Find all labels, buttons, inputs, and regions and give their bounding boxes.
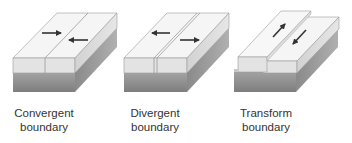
transform-label-line1: Transform bbox=[231, 106, 301, 120]
transform-label-line2: boundary bbox=[231, 120, 301, 134]
convergent-label-line2: boundary bbox=[8, 120, 80, 134]
divergent-label: Divergent boundary bbox=[120, 106, 190, 134]
convergent-block bbox=[13, 13, 117, 92]
divergent-label-line1: Divergent bbox=[120, 106, 190, 120]
transform-label: Transform boundary bbox=[231, 106, 301, 134]
transform-block bbox=[234, 11, 339, 92]
convergent-label-line1: Convergent bbox=[8, 106, 80, 120]
convergent-label: Convergent boundary bbox=[8, 106, 80, 134]
divergent-block bbox=[124, 13, 229, 92]
divergent-label-line2: boundary bbox=[120, 120, 190, 134]
